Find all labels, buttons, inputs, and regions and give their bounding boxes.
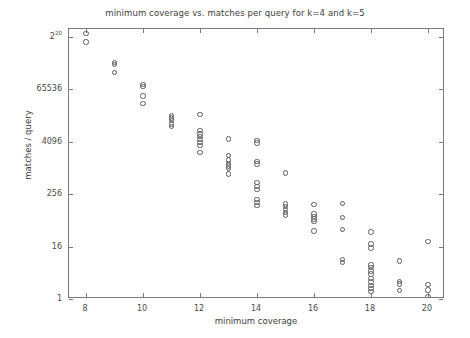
- data-point: [254, 203, 259, 208]
- x-tick-label: 18: [365, 304, 375, 313]
- x-axis-tick-top: [257, 29, 258, 33]
- x-axis-tick: [257, 293, 258, 297]
- x-tick-label: 12: [194, 304, 204, 313]
- scatter-chart-figure: minimum coverage vs. matches per query f…: [0, 0, 470, 338]
- y-axis-tick-right: [439, 89, 443, 90]
- data-point: [397, 258, 402, 263]
- data-point: [226, 171, 231, 176]
- x-tick-label: 20: [422, 304, 432, 313]
- data-point: [397, 288, 402, 293]
- x-axis-tick: [86, 293, 87, 297]
- data-point: [425, 239, 430, 244]
- x-axis-tick: [371, 293, 372, 297]
- y-tick-label: 1: [0, 294, 62, 303]
- x-tick-label: 10: [137, 304, 147, 313]
- data-point: [226, 136, 231, 141]
- x-tick-label: 16: [308, 304, 318, 313]
- data-point: [368, 245, 373, 250]
- data-point: [283, 170, 288, 175]
- data-point: [340, 227, 345, 232]
- data-point: [169, 124, 174, 129]
- y-axis-tick-right: [439, 142, 443, 143]
- x-axis-label: minimum coverage: [68, 316, 444, 326]
- x-axis-tick: [428, 293, 429, 297]
- y-tick-label: 220: [0, 31, 62, 40]
- data-point: [425, 287, 430, 292]
- y-tick-label: 16: [0, 241, 62, 250]
- data-points-layer: [69, 29, 443, 297]
- y-axis-tick-right: [439, 299, 443, 300]
- y-axis-tick-right: [439, 37, 443, 38]
- data-point: [368, 229, 373, 234]
- x-axis-tick: [314, 293, 315, 297]
- data-point: [340, 260, 345, 265]
- data-point: [397, 281, 402, 286]
- data-point: [197, 150, 202, 155]
- x-axis-tick-top: [314, 29, 315, 33]
- x-axis-tick-top: [371, 29, 372, 33]
- data-point: [254, 161, 259, 166]
- data-point: [340, 215, 345, 220]
- y-tick-label: 65536: [0, 84, 62, 93]
- x-axis-tick: [143, 293, 144, 297]
- y-axis-tick: [69, 37, 73, 38]
- data-point: [283, 212, 288, 217]
- x-axis-tick-top: [143, 29, 144, 33]
- y-axis-tick: [69, 194, 73, 195]
- x-tick-label: 14: [251, 304, 261, 313]
- data-point: [83, 39, 88, 44]
- x-axis-tick-top: [86, 29, 87, 33]
- x-axis-tick-top: [200, 29, 201, 33]
- data-point: [311, 228, 316, 233]
- chart-title: minimum coverage vs. matches per query f…: [0, 8, 470, 18]
- y-axis-tick-right: [439, 194, 443, 195]
- plot-area: [68, 28, 444, 298]
- data-point: [311, 202, 316, 207]
- y-axis-tick: [69, 247, 73, 248]
- data-point: [140, 84, 145, 89]
- y-axis-tick: [69, 299, 73, 300]
- data-point: [311, 219, 316, 224]
- x-axis-tick: [200, 293, 201, 297]
- data-point: [197, 112, 202, 117]
- y-axis-tick: [69, 142, 73, 143]
- data-point: [140, 101, 145, 106]
- data-point: [140, 93, 145, 98]
- data-point: [112, 70, 117, 75]
- y-axis-tick: [69, 89, 73, 90]
- data-point: [254, 140, 259, 145]
- y-tick-label: 256: [0, 189, 62, 198]
- data-point: [112, 62, 117, 67]
- y-axis-tick-right: [439, 247, 443, 248]
- data-point: [340, 201, 345, 206]
- y-tick-label: 4096: [0, 136, 62, 145]
- data-point: [197, 143, 202, 148]
- data-point: [254, 187, 259, 192]
- x-tick-label: 8: [83, 304, 88, 313]
- x-axis-tick-top: [428, 29, 429, 33]
